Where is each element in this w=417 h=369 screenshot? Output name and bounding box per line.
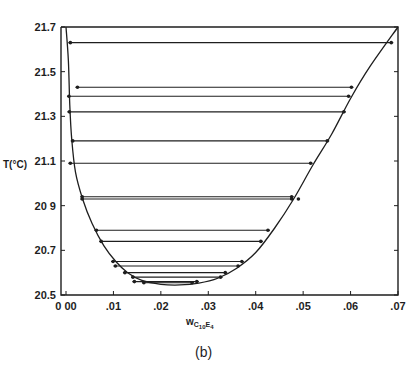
tie-line-left-point xyxy=(99,240,103,244)
x-tick-label: .04 xyxy=(248,300,264,312)
tie-line-left-point xyxy=(123,271,127,275)
tie-line-left-point xyxy=(114,264,118,268)
tie-line-right-point xyxy=(309,161,313,165)
tie-line-left-point xyxy=(68,110,72,114)
tie-line-right-point xyxy=(223,271,227,275)
tie-line-right-point xyxy=(389,41,393,45)
tie-line-left-point xyxy=(133,280,137,284)
tie-line-left-point xyxy=(95,228,99,232)
isolated-data-point xyxy=(297,197,301,201)
tie-line-right-point xyxy=(290,197,294,201)
y-tick-label: 21.1 xyxy=(35,155,56,167)
tie-line-right-point xyxy=(236,264,240,268)
y-axis-ticks: 20.520.720 921.121.321.521.7 xyxy=(35,21,398,301)
tie-line-left-point xyxy=(131,275,135,279)
tie-line-right-point xyxy=(190,281,194,285)
x-tick-label: .07 xyxy=(390,300,405,312)
tie-line-left-point xyxy=(76,86,80,90)
coexistence-curve xyxy=(66,27,398,285)
tie-line-right-point xyxy=(350,86,354,90)
y-tick-label: 21.7 xyxy=(35,21,56,33)
tie-line-right-point xyxy=(342,110,346,114)
tie-line-left-point xyxy=(142,281,146,285)
tie-lines xyxy=(67,43,393,283)
x-tick-label: .01 xyxy=(106,300,121,312)
y-tick-label: 20.7 xyxy=(35,244,56,256)
tie-line-left-point xyxy=(71,139,75,143)
tie-line-right-point xyxy=(240,260,244,264)
y-tick-label: 21.3 xyxy=(35,110,56,122)
data-points xyxy=(67,41,393,285)
x-tick-label: 0 00 xyxy=(55,300,76,312)
x-tick-label: .06 xyxy=(343,300,358,312)
tie-line-right-point xyxy=(259,240,263,244)
x-tick-label: .05 xyxy=(295,300,310,312)
x-tick-label: .03 xyxy=(201,300,216,312)
x-tick-label: .02 xyxy=(153,300,168,312)
y-tick-label: 20.5 xyxy=(35,289,56,301)
axis-lines xyxy=(61,27,398,295)
tie-line-right-point xyxy=(266,228,270,232)
figure-caption: (b) xyxy=(195,344,212,360)
tie-line-left-point xyxy=(80,197,84,201)
tie-line-right-point xyxy=(325,139,329,143)
x-axis-ticks: 0 00.01.02.03.04.05.06.07 xyxy=(55,291,405,312)
y-tick-label: 20 9 xyxy=(35,200,56,212)
tie-line-right-point xyxy=(195,280,199,284)
x-axis-title: wC10E4 xyxy=(185,316,214,330)
tie-line-left-point xyxy=(67,94,71,98)
x-axis-title-sub-4: 4 xyxy=(210,324,214,330)
tie-line-left-point xyxy=(111,260,115,264)
tie-line-right-point xyxy=(219,275,223,279)
plot-frame xyxy=(61,27,398,295)
y-axis-title: T(°C) xyxy=(3,159,27,170)
y-tick-label: 21.5 xyxy=(35,66,56,78)
phase-diagram-chart: 20.520.720 921.121.321.521.7 0 00.01.02.… xyxy=(0,0,417,369)
x-axis-title-main: w xyxy=(185,316,194,327)
tie-line-left-point xyxy=(69,41,73,45)
tie-line-left-point xyxy=(69,161,73,165)
tie-line-right-point xyxy=(347,94,351,98)
